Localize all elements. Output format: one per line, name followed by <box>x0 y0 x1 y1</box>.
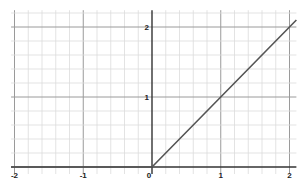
y-tick-label: 2 <box>145 23 150 32</box>
axes <box>11 10 296 174</box>
series <box>11 20 296 167</box>
grid <box>11 10 296 174</box>
x-tick-label: -1 <box>80 171 88 180</box>
x-tick-label: 1 <box>219 171 224 180</box>
y-tick-label: 1 <box>145 93 150 102</box>
relu-chart: -2-101212 <box>0 0 300 186</box>
series-line <box>11 20 296 167</box>
x-tick-label: 2 <box>287 171 292 180</box>
x-tick-label: 0 <box>147 171 152 180</box>
x-tick-label: -2 <box>11 171 19 180</box>
